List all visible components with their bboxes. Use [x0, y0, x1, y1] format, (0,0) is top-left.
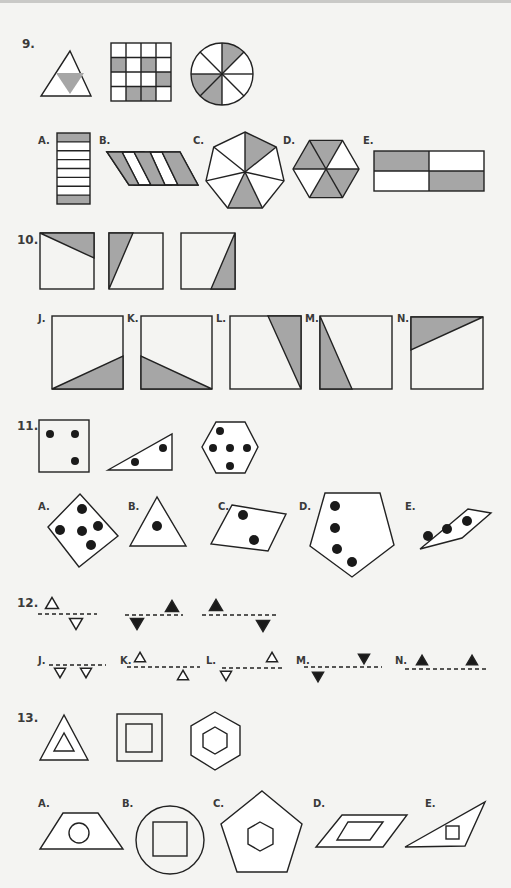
given-figure-triangle-with-shaded-inner-triangle: [41, 51, 91, 96]
question-10: 10.J.K.L.M.N.: [17, 233, 483, 389]
answer-option-j[interactable]: J.: [37, 655, 106, 678]
answer-option-b[interactable]: B.: [99, 135, 198, 185]
option-label: C.: [218, 501, 229, 512]
option-label: E.: [405, 501, 416, 512]
question-13: 13.A.B.C.D.E.: [17, 711, 485, 874]
answer-option-d[interactable]: D.: [313, 798, 407, 847]
option-label: A.: [38, 135, 50, 146]
option-label: D.: [283, 135, 295, 146]
option-label: A.: [38, 501, 50, 512]
question-number: 12.: [17, 596, 38, 610]
option-label: D.: [313, 798, 325, 809]
given-figure-line-filled-down-below-filled-up-above: [125, 600, 183, 629]
question-number: 10.: [17, 233, 38, 247]
answer-option-d[interactable]: D.: [283, 135, 359, 198]
question-9: 9.A.B.C.D.E.: [22, 37, 484, 208]
question-number: 9.: [22, 37, 35, 51]
option-label: E.: [363, 135, 374, 146]
answer-option-a[interactable]: A.: [38, 133, 90, 204]
given-figure-line-open-up-above-open-down-below: [38, 597, 97, 629]
option-label: J.: [37, 313, 46, 324]
answer-option-l[interactable]: L.: [216, 313, 301, 389]
option-label: B.: [128, 501, 139, 512]
answer-option-e[interactable]: E.: [363, 135, 484, 191]
option-label: K.: [120, 655, 132, 666]
option-label: D.: [299, 501, 311, 512]
answer-option-m[interactable]: M.: [305, 313, 392, 389]
given-figure-line-filled-up-above-filled-down-below: [202, 599, 278, 631]
option-label: B.: [99, 135, 110, 146]
answer-option-e[interactable]: E.: [405, 798, 485, 847]
answer-option-d[interactable]: D.: [299, 493, 394, 577]
given-figure-hexagon-5-dots: [202, 422, 258, 473]
answer-option-m[interactable]: M.: [296, 654, 382, 681]
answer-option-c[interactable]: C.: [213, 791, 302, 872]
option-label: M.: [296, 655, 310, 666]
answer-option-c[interactable]: C.: [211, 501, 286, 551]
option-label: N.: [397, 313, 409, 324]
given-figure-triangle-2-dots: [108, 434, 172, 470]
question-11: 11.A.B.C.D.E.: [17, 419, 491, 577]
option-label: C.: [213, 798, 224, 809]
option-label: M.: [305, 313, 319, 324]
given-figure-circle-8-sectors-shaded: [191, 43, 253, 105]
option-label: B.: [122, 798, 133, 809]
answer-option-j[interactable]: J.: [37, 313, 123, 389]
answer-option-a[interactable]: A.: [38, 798, 123, 849]
answer-option-n[interactable]: N.: [395, 655, 487, 669]
given-figure-square-in-square: [117, 714, 162, 761]
option-label: L.: [216, 313, 226, 324]
option-label: A.: [38, 798, 50, 809]
given-figure-triangle-in-triangle: [40, 715, 88, 760]
given-figure-square-shaded-top-right: [40, 233, 94, 289]
given-figure-square-shaded-left-sliver: [109, 233, 163, 289]
given-figure-square-3-dots: [39, 420, 89, 472]
answer-option-l[interactable]: L.: [206, 652, 282, 680]
worksheet-page: 9.A.B.C.D.E.10.J.K.L.M.N.11.A.B.C.D.E.12…: [0, 0, 511, 888]
answer-option-n[interactable]: N.: [397, 313, 483, 389]
given-figure-square-shaded-right-sliver: [181, 233, 235, 289]
option-label: L.: [206, 655, 216, 666]
option-label: J.: [37, 655, 46, 666]
answer-option-b[interactable]: B.: [122, 798, 204, 874]
question-number: 11.: [17, 419, 38, 433]
answer-option-c[interactable]: C.: [193, 132, 284, 208]
option-label: E.: [425, 798, 436, 809]
answer-option-e[interactable]: E.: [405, 501, 491, 549]
option-label: C.: [193, 135, 204, 146]
question-number: 13.: [17, 711, 38, 725]
given-figure-hexagon-in-hexagon: [191, 712, 240, 770]
option-label: K.: [127, 313, 139, 324]
answer-option-b[interactable]: B.: [128, 497, 186, 546]
answer-option-k[interactable]: K.: [127, 313, 212, 389]
question-12: 12.J.K.L.M.N.: [17, 596, 487, 682]
option-label: N.: [395, 655, 407, 666]
answer-option-k[interactable]: K.: [120, 652, 200, 679]
given-figure-grid-4x4-shaded: [111, 43, 171, 101]
answer-option-a[interactable]: A.: [38, 494, 118, 567]
